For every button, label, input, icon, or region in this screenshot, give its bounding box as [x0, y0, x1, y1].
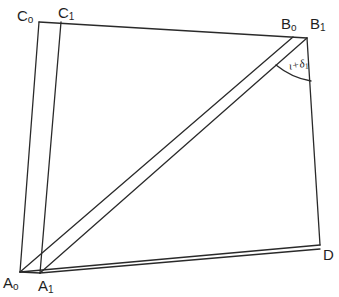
vertex-label-c0: Co — [17, 8, 33, 25]
angle-label-main: ι+δ — [288, 57, 305, 72]
vertex-label-d: D — [323, 247, 334, 262]
edge-c0-b1 — [39, 22, 307, 38]
geometry-diagram — [0, 0, 339, 297]
edge-a1-d — [40, 249, 320, 273]
edge-c0-a0 — [20, 22, 39, 272]
a0-subscript: o — [13, 281, 19, 292]
b0-letter: B — [281, 15, 291, 32]
edge-a0-b0 — [20, 37, 293, 272]
vertex-label-b0: Bo — [281, 16, 297, 33]
vertex-label-a0: Ao — [3, 275, 19, 292]
vertex-label-b1: B1 — [310, 16, 326, 33]
a1-subscript: 1 — [48, 284, 54, 295]
vertex-label-c1: C1 — [58, 5, 74, 22]
c0-subscript: o — [28, 14, 34, 25]
edge-a0-d — [20, 245, 320, 272]
vertex-label-a1: A1 — [38, 278, 54, 295]
c1-letter: C — [58, 4, 69, 21]
c1-subscript: 1 — [69, 11, 75, 22]
c0-letter: C — [17, 7, 28, 24]
b1-letter: B — [310, 15, 320, 32]
d-letter: D — [323, 246, 334, 263]
b0-subscript: o — [291, 22, 297, 33]
edge-a1-b1 — [40, 38, 307, 273]
b1-subscript: 1 — [320, 22, 326, 33]
edge-a0-a1 — [20, 272, 40, 273]
edge-c1-a1 — [40, 22, 61, 273]
a0-letter: A — [3, 274, 13, 291]
a1-letter: A — [38, 277, 48, 294]
